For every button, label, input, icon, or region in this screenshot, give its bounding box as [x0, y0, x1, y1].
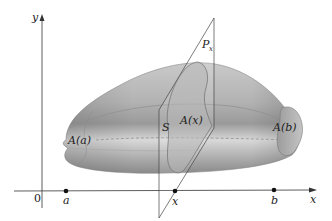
- point-x-marker: [173, 189, 178, 194]
- cross-section-b-label: A(b): [272, 121, 297, 134]
- point-a-label: a: [63, 194, 70, 207]
- point-x-label: x: [172, 195, 179, 208]
- point-b-marker: [272, 188, 277, 193]
- y-axis-arrow-icon: [40, 14, 45, 21]
- y-axis-label: y: [31, 11, 39, 24]
- solid-label: S: [162, 121, 170, 134]
- volume-by-slicing-figure: y 0 x a x b P x S A(a) A(x) A(b): [0, 0, 332, 221]
- point-a-marker: [64, 189, 69, 194]
- cross-section-x-label: A(x): [179, 114, 203, 127]
- cross-section-a-label: A(a): [67, 134, 91, 147]
- origin-label: 0: [34, 192, 41, 205]
- x-axis-arrow-icon: [309, 188, 317, 193]
- x-axis-label: x: [310, 193, 317, 206]
- point-b-label: b: [271, 194, 278, 207]
- plane-label-subscript: x: [209, 45, 213, 53]
